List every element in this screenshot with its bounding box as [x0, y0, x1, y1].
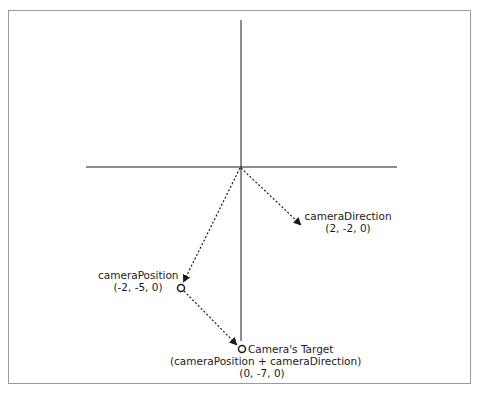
camera-direction-coords: (2, -2, 0) [298, 222, 398, 234]
camera-position-coords: (-2, -5, 0) [98, 281, 178, 293]
camera-position-point [178, 285, 185, 292]
vector-diagram [0, 0, 481, 395]
camera-direction-label: cameraDirection (2, -2, 0) [298, 210, 398, 234]
position-to-target-arrow [184, 291, 236, 344]
camera-target-coords: (0, -7, 0) [170, 367, 354, 379]
camera-position-label: cameraPosition (-2, -5, 0) [98, 269, 178, 293]
camera-direction-arrow [241, 168, 300, 224]
camera-target-formula: (cameraPosition + cameraDirection) [170, 355, 354, 367]
camera-position-name: cameraPosition [98, 269, 178, 281]
camera-target-title: Camera's Target [248, 343, 333, 355]
camera-position-arrow [184, 168, 240, 281]
camera-direction-name: cameraDirection [298, 210, 398, 222]
camera-target-label: (cameraPosition + cameraDirection) (0, -… [170, 355, 354, 379]
camera-target-point [239, 346, 246, 353]
